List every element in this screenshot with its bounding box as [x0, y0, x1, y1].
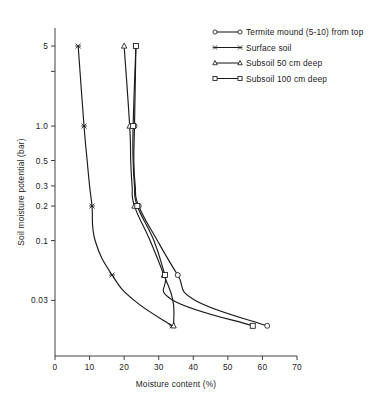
- x-tick-label: 10: [85, 362, 95, 372]
- marker-square: [238, 76, 242, 80]
- legend-item-2: Surface soil: [213, 43, 292, 53]
- x-tick-label: 60: [258, 362, 268, 372]
- series-1: [132, 44, 270, 329]
- marker-square: [250, 323, 255, 328]
- x-tick-label: 30: [154, 362, 164, 372]
- series-2: [75, 44, 175, 329]
- legend-label: Termite mound (5-10) from top: [246, 27, 364, 37]
- series-3: [121, 43, 176, 328]
- y-tick-label: 5: [43, 41, 48, 51]
- x-tick-label: 70: [292, 362, 302, 372]
- y-axis-title: Soil moisture potential (bar): [16, 138, 26, 245]
- y-axis-group: 51.00.50.30.20.10.03 Soil moisture poten…: [16, 28, 55, 356]
- marker-triangle: [121, 43, 126, 48]
- data-series-layer: [75, 43, 269, 328]
- marker-star: [213, 45, 218, 49]
- marker-square: [213, 76, 217, 80]
- y-tick-label: 0.1: [36, 236, 48, 246]
- x-tick-label: 40: [188, 362, 198, 372]
- y-tick-label: 0.5: [36, 156, 48, 166]
- marker-star: [238, 45, 243, 49]
- soil-moisture-retention-figure: 51.00.50.30.20.10.03 Soil moisture poten…: [0, 0, 379, 400]
- x-tick-label: 0: [53, 362, 58, 372]
- legend-label: Subsoil 50 cm deep: [246, 58, 322, 68]
- marker-circle: [213, 30, 217, 34]
- series-line: [133, 46, 253, 326]
- legend-item-1: Termite mound (5-10) from top: [213, 27, 364, 37]
- marker-circle: [238, 30, 242, 34]
- legend-label: Subsoil 100 cm deep: [246, 74, 327, 84]
- legend-label: Surface soil: [246, 43, 292, 53]
- marker-triangle: [213, 61, 218, 65]
- marker-square: [162, 273, 167, 278]
- y-tick-label: 0.3: [36, 181, 48, 191]
- x-tick-label: 20: [119, 362, 129, 372]
- x-axis-title: Moisture content (%): [136, 379, 217, 389]
- series-4: [131, 44, 256, 329]
- x-axis-group: 010203040506070 Moisture content (%): [53, 356, 302, 389]
- marker-star: [109, 273, 115, 278]
- chart-canvas: 51.00.50.30.20.10.03 Soil moisture poten…: [0, 0, 379, 400]
- y-tick-label: 0.2: [36, 201, 48, 211]
- series-line: [124, 46, 174, 326]
- marker-circle: [175, 273, 180, 278]
- y-tick-label: 1.0: [36, 121, 48, 131]
- legend-item-3: Subsoil 50 cm deep: [213, 58, 323, 68]
- series-line: [134, 46, 267, 326]
- x-tick-label: 50: [223, 362, 233, 372]
- marker-circle: [265, 323, 270, 328]
- x-axis-ticks: 010203040506070: [53, 356, 302, 372]
- marker-square: [135, 204, 140, 209]
- marker-triangle: [238, 61, 243, 65]
- legend-item-4: Subsoil 100 cm deep: [213, 74, 327, 84]
- series-line: [78, 46, 172, 326]
- y-axis-ticks: 51.00.50.30.20.10.03: [31, 41, 55, 305]
- y-tick-label: 0.03: [31, 295, 48, 305]
- chart-legend: Termite mound (5-10) from topSurface soi…: [213, 27, 364, 83]
- marker-square: [131, 124, 136, 129]
- marker-square: [133, 44, 138, 49]
